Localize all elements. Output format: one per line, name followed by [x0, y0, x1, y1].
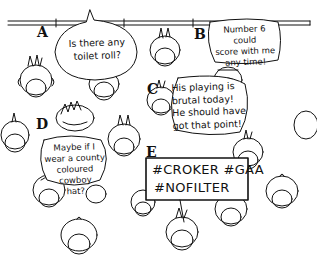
- sign-line-2: #NOFILTER: [152, 179, 264, 197]
- label-a: A: [37, 25, 48, 39]
- bubble-d-line-3: coloured cowboy: [40, 163, 111, 187]
- bubble-c-line-1: His playing is: [171, 80, 245, 95]
- speech-bubble-c: His playing is brutal today! He should h…: [171, 80, 247, 133]
- bubble-b-line-1: Number 6 could: [211, 23, 278, 47]
- sign-line-1: #CROKER #GAA: [152, 161, 264, 179]
- speech-bubble-a: Is there any toilet roll?: [64, 35, 131, 63]
- bubble-b-line-3: any time!: [212, 56, 278, 69]
- label-e: E: [146, 145, 157, 159]
- sign-text: #CROKER #GAA #NOFILTER: [152, 161, 264, 197]
- label-b: B: [194, 27, 206, 41]
- label-d: D: [36, 117, 48, 131]
- label-c: C: [147, 82, 158, 96]
- bubble-c-line-4: got that point!: [172, 117, 246, 132]
- speech-bubble-d: Maybe if I wear a county coloured cowboy…: [39, 141, 111, 198]
- speech-bubble-b: Number 6 could score with me any time!: [211, 23, 278, 69]
- cartoon-canvas: A B C D E Is there any toilet roll? Numb…: [0, 0, 317, 272]
- bubble-a-line-2: toilet roll?: [64, 48, 130, 63]
